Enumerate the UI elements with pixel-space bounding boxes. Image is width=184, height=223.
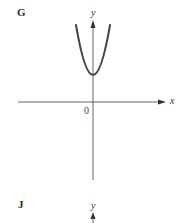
- j-y-axis-label: y: [91, 201, 95, 211]
- diagram-canvas: G y x 0 J y: [0, 0, 184, 223]
- j-y-axis-arrow-icon: [91, 212, 96, 219]
- y-axis-label: y: [91, 8, 95, 18]
- x-axis-label: x: [170, 96, 174, 106]
- panel-label-g: G: [17, 7, 26, 18]
- x-axis-arrow-icon: [158, 100, 166, 105]
- graph-g-svg: [0, 0, 184, 223]
- origin-label: 0: [84, 106, 89, 116]
- panel-label-j: J: [18, 199, 24, 210]
- y-axis-arrow-icon: [91, 20, 96, 28]
